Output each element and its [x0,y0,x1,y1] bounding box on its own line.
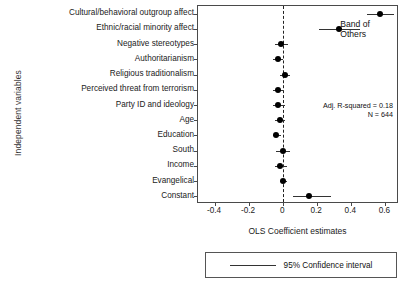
category-label: South [18,145,194,154]
x-tick-label: 0.2 [311,206,322,215]
y-tick [194,166,198,167]
y-tick [194,105,198,106]
chart-title: Band ofOthers [340,19,370,40]
model-stats: Adj. R-squared = 0.18N = 644 [281,101,393,119]
confidence-interval-bar [293,196,330,197]
chart-figure: Independent variables Cultural/behaviora… [0,0,406,288]
y-tick [194,59,198,60]
y-tick [194,44,198,45]
category-label: Age [18,115,194,124]
estimate-point [377,11,383,17]
category-label: Evangelical [18,176,194,185]
estimate-point [280,178,286,184]
x-tick-label: 0.4 [345,206,356,215]
x-tick-label: 0 [280,206,285,215]
category-label: Ethnic/racial minority affect [18,23,194,32]
category-label: Perceived threat from terrorism [18,84,194,93]
sample-size-text: N = 644 [281,110,393,119]
y-tick [194,14,198,15]
y-tick [194,90,198,91]
estimate-point [282,72,288,78]
legend-line-swatch [230,265,276,266]
estimate-point [280,148,286,154]
category-label: Party ID and ideology [18,100,194,109]
chart-title-line: Others [340,29,370,40]
legend-label: 95% Confidence interval [284,261,373,270]
category-label: Cultural/behavioral outgroup affect [18,8,194,17]
y-axis-category-labels: Cultural/behavioral outgroup affectEthni… [18,5,194,203]
x-tick-label: 0.6 [379,206,390,215]
category-label: Religious traditionalism [18,69,194,78]
y-tick [194,29,198,30]
category-label: Income [18,160,194,169]
y-tick [194,196,198,197]
adj-r-squared-text: Adj. R-squared = 0.18 [281,101,393,110]
y-tick [194,120,198,121]
y-tick [194,151,198,152]
plot-area: Band ofOthers Adj. R-squared = 0.18N = 6… [197,5,398,203]
y-tick [194,75,198,76]
category-label: Negative stereotypes [18,39,194,48]
category-label: Constant [18,191,194,200]
x-axis-title: OLS Coefficient estimates [197,226,398,236]
estimate-point [306,193,312,199]
estimate-point [277,163,283,169]
x-tick-label: -0.4 [207,206,221,215]
estimate-point [278,41,284,47]
category-label: Authoritarianism [18,54,194,63]
estimate-point [275,87,281,93]
chart-title-line: Band of [340,19,370,30]
estimate-point [275,56,281,62]
estimate-point [273,132,279,138]
category-label: Education [18,130,194,139]
y-tick [194,181,198,182]
legend-box: 95% Confidence interval [205,252,397,278]
x-tick-label: -0.2 [241,206,255,215]
y-tick [194,135,198,136]
